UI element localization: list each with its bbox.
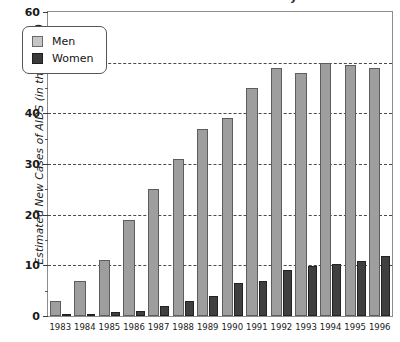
x-tick-label-1991: 1991 [246,322,268,332]
bar-women-1985[interactable] [111,312,120,316]
x-tick-label-1989: 1989 [197,322,219,332]
bar-group-1986 [122,12,147,316]
y-tick-label-60: 60 [25,6,40,19]
x-tick-label-1988: 1988 [172,322,194,332]
chart-title-fragment: y [290,0,400,3]
bar-group-1994 [318,12,343,316]
bar-men-1985[interactable] [99,260,110,316]
bar-group-1995 [343,12,368,316]
y-tick-label-20: 20 [25,208,40,221]
bar-group-1993 [294,12,319,316]
x-tick-label-1987: 1987 [148,322,170,332]
x-tick-label-1983: 1983 [49,322,71,332]
y-tick-0 [43,316,48,317]
bar-men-1994[interactable] [320,63,331,316]
bar-group-1990 [220,12,245,316]
bar-women-1995[interactable] [357,261,366,316]
bar-women-1992[interactable] [283,270,292,316]
bar-men-1992[interactable] [271,68,282,316]
bar-group-1992 [269,12,294,316]
x-tick-label-1996: 1996 [369,322,391,332]
bar-women-1983[interactable] [62,314,71,316]
y-tick-label-0: 0 [32,310,40,323]
bar-women-1984[interactable] [87,314,96,316]
x-tick-label-1985: 1985 [99,322,121,332]
y-tick-label-40: 40 [25,107,40,120]
bar-women-1991[interactable] [259,281,268,316]
legend-item-men[interactable]: Men [32,33,93,50]
bar-men-1988[interactable] [173,159,184,316]
bar-men-1989[interactable] [197,129,208,316]
x-tick-label-1990: 1990 [221,322,243,332]
bar-men-1996[interactable] [369,68,380,316]
x-tick-label-1992: 1992 [271,322,293,332]
x-tick-label-1994: 1994 [320,322,342,332]
bar-group-1988 [171,12,196,316]
y-tick-label-30: 30 [25,158,40,171]
bar-women-1993[interactable] [308,266,317,316]
bar-men-1983[interactable] [50,301,61,316]
bar-group-1987 [146,12,171,316]
bar-women-1987[interactable] [160,306,169,316]
legend-item-women[interactable]: Women [32,50,93,67]
aids-cases-bar-chart: y Estimated New Cases of AIDS (in thousa… [0,0,400,342]
legend-label-men: Men [52,35,75,48]
x-tick-label-1995: 1995 [344,322,366,332]
bar-men-1986[interactable] [123,220,134,316]
bar-men-1987[interactable] [148,189,159,316]
bar-women-1986[interactable] [136,311,145,316]
y-tick-label-10: 10 [25,259,40,272]
bar-group-1996 [367,12,392,316]
x-tick-label-1984: 1984 [74,322,96,332]
bar-group-1991 [245,12,270,316]
legend-swatch-women-icon [32,53,43,64]
bar-men-1991[interactable] [246,88,257,316]
x-tick-label-1986: 1986 [123,322,145,332]
bar-women-1990[interactable] [234,283,243,316]
bar-men-1995[interactable] [345,65,356,316]
bar-men-1993[interactable] [295,73,306,316]
bar-women-1988[interactable] [185,301,194,316]
bar-women-1989[interactable] [209,296,218,316]
bar-group-1989 [195,12,220,316]
legend-swatch-men-icon [32,36,43,47]
x-tick-label-1993: 1993 [295,322,317,332]
bar-men-1984[interactable] [74,281,85,316]
chart-legend[interactable]: Men Women [22,26,107,74]
bar-women-1994[interactable] [332,264,341,316]
legend-label-women: Women [52,52,93,65]
bar-men-1990[interactable] [222,118,233,316]
bar-women-1996[interactable] [381,256,390,316]
